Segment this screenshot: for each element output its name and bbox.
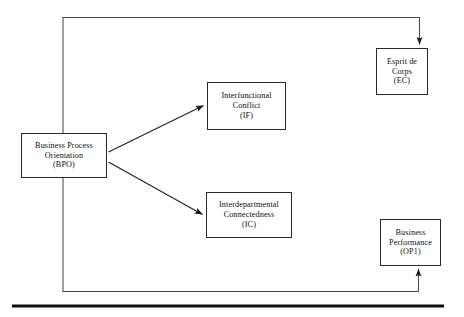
node-label-line-2: Conflict (233, 101, 261, 111)
node-label-line-2: Connectedness (224, 210, 274, 220)
node-business-performance[interactable]: Business Performance (OP1) (380, 219, 441, 266)
node-label-line-2: Corps (392, 67, 412, 77)
node-label-line-3: (EC) (394, 76, 410, 86)
edge-bpo-to-ic (109, 162, 203, 215)
node-interdepartmental-connectedness[interactable]: Interdepartmental Connectedness (IC) (206, 192, 292, 238)
node-esprit-de-corps[interactable]: Esprit de Corps (EC) (376, 48, 428, 95)
node-label-line-1: Business (396, 228, 426, 238)
node-label-line-1: Esprit de (387, 57, 417, 67)
node-label-line-1: Business Process (35, 141, 93, 151)
node-label-line-3: (OP1) (400, 247, 421, 257)
node-label-line-2: Performance (389, 238, 432, 248)
node-label-line-2: Orientation (45, 151, 83, 161)
node-label-line-3: (IC) (242, 220, 256, 230)
node-label-line-3: (BPO) (53, 160, 75, 170)
node-business-process-orientation[interactable]: Business Process Orientation (BPO) (21, 133, 107, 178)
node-label-line-1: Interfunctional (221, 91, 271, 101)
node-interfunctional-conflict[interactable]: Interfunctional Conflict (IF) (207, 82, 286, 130)
node-label-line-1: Interdepartmental (219, 200, 279, 210)
edge-bpo-to-if (109, 106, 204, 153)
diagram-canvas: Business Process Orientation (BPO) Inter… (0, 0, 464, 317)
node-label-line-3: (IF) (240, 111, 253, 121)
